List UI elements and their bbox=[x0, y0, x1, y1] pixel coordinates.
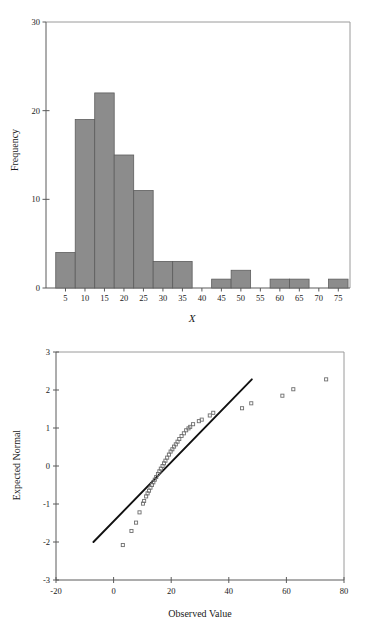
histogram-x-axis-title: X bbox=[188, 312, 197, 324]
qq-reference-line bbox=[93, 379, 251, 542]
qq-marker bbox=[325, 378, 328, 381]
x-tick-label: 40 bbox=[198, 293, 207, 303]
y-tick-label: 1 bbox=[46, 423, 50, 433]
y-tick-label: 20 bbox=[32, 106, 41, 116]
y-tick-label: 3 bbox=[46, 347, 50, 357]
qq-marker bbox=[212, 411, 215, 414]
x-tick-label: 35 bbox=[178, 293, 187, 303]
x-tick-label: -20 bbox=[50, 586, 61, 596]
y-tick-label: -2 bbox=[43, 537, 50, 547]
x-tick-label: 60 bbox=[282, 586, 291, 596]
x-tick-label: 75 bbox=[334, 293, 343, 303]
histogram-bar bbox=[134, 190, 153, 288]
qq-plot-svg: -20020406080 3210-1-2-3 Observed Value E… bbox=[0, 330, 370, 634]
y-tick-label: 0 bbox=[36, 283, 40, 293]
qq-marker bbox=[281, 394, 284, 397]
histogram-bars bbox=[56, 93, 348, 288]
histogram-bar bbox=[114, 155, 133, 288]
qq-marker bbox=[292, 388, 295, 391]
qq-marker bbox=[130, 529, 133, 532]
x-tick-label: 15 bbox=[100, 293, 109, 303]
qq-y-axis-title: Expected Normal bbox=[11, 430, 22, 500]
qq-marker bbox=[250, 402, 253, 405]
figure-page: 51015202530354045505560657075 0102030 X … bbox=[0, 0, 370, 634]
histogram-bar bbox=[173, 261, 192, 288]
histogram-x-ticks: 51015202530354045505560657075 bbox=[63, 288, 342, 303]
x-tick-label: 30 bbox=[159, 293, 168, 303]
x-tick-label: 65 bbox=[295, 293, 304, 303]
y-tick-label: 10 bbox=[32, 194, 41, 204]
x-tick-label: 5 bbox=[63, 293, 67, 303]
x-tick-label: 60 bbox=[276, 293, 285, 303]
x-tick-label: 0 bbox=[111, 586, 115, 596]
histogram-y-ticks: 0102030 bbox=[32, 17, 50, 293]
histogram-bar bbox=[56, 253, 75, 288]
y-tick-label: 30 bbox=[32, 17, 41, 27]
qq-plot-figure: -20020406080 3210-1-2-3 Observed Value E… bbox=[0, 330, 370, 634]
histogram-bar bbox=[95, 93, 114, 288]
histogram-bar bbox=[153, 261, 172, 288]
qq-x-axis-title: Observed Value bbox=[168, 608, 232, 619]
y-tick-label: 2 bbox=[46, 385, 50, 395]
y-tick-label: -1 bbox=[43, 499, 50, 509]
y-tick-label: 0 bbox=[46, 461, 50, 471]
histogram-svg: 51015202530354045505560657075 0102030 X … bbox=[0, 0, 370, 330]
histogram-bar bbox=[270, 279, 289, 288]
histogram-figure: 51015202530354045505560657075 0102030 X … bbox=[0, 0, 370, 330]
x-tick-label: 20 bbox=[120, 293, 129, 303]
qq-marker bbox=[240, 407, 243, 410]
x-tick-label: 25 bbox=[139, 293, 148, 303]
qq-marker bbox=[121, 543, 124, 546]
histogram-y-axis-title: Frequency bbox=[9, 129, 20, 171]
x-tick-label: 20 bbox=[167, 586, 176, 596]
x-tick-label: 80 bbox=[340, 586, 349, 596]
x-tick-label: 40 bbox=[225, 586, 234, 596]
x-tick-label: 70 bbox=[315, 293, 324, 303]
histogram-bar bbox=[231, 270, 250, 288]
histogram-bar bbox=[212, 279, 231, 288]
qq-frame bbox=[56, 352, 344, 580]
qq-data-points bbox=[121, 378, 327, 547]
histogram-bar bbox=[75, 120, 94, 288]
histogram-bar bbox=[329, 279, 348, 288]
qq-marker bbox=[138, 511, 141, 514]
y-tick-label: -3 bbox=[43, 575, 50, 585]
qq-marker bbox=[135, 521, 138, 524]
x-tick-label: 55 bbox=[256, 293, 265, 303]
x-tick-label: 50 bbox=[237, 293, 246, 303]
x-tick-label: 45 bbox=[217, 293, 226, 303]
x-tick-label: 10 bbox=[81, 293, 90, 303]
qq-y-ticks: 3210-1-2-3 bbox=[43, 347, 59, 585]
qq-marker bbox=[208, 414, 211, 417]
histogram-bar bbox=[290, 279, 309, 288]
